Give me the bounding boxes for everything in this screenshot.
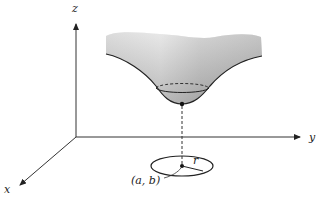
minimum-point <box>180 102 184 106</box>
x-axis <box>20 137 76 185</box>
surface-graph <box>106 32 262 106</box>
diagram-canvas: z y x r (a, b) <box>0 0 320 200</box>
y-axis-label: y <box>308 131 316 144</box>
radius-label: r <box>193 154 199 167</box>
z-axis-label: z <box>71 2 78 15</box>
point-label: (a, b) <box>131 174 160 187</box>
x-axis-label: x <box>4 183 11 196</box>
